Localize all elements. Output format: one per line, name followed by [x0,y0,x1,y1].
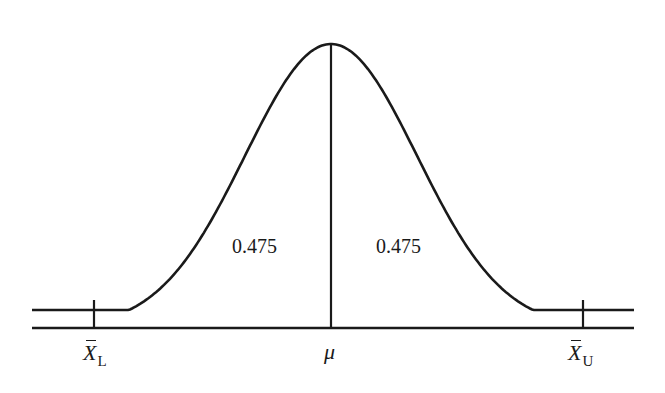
upper-subscript: U [582,353,593,369]
x-bar-symbol: X [568,340,581,366]
bell-curve [32,44,634,310]
x-bar-symbol: X [83,340,96,366]
upper-limit-label: XU [568,340,592,366]
lower-subscript: L [97,353,106,369]
left-area-label: 0.475 [232,235,277,258]
lower-limit-label: XL [83,340,106,366]
curve-canvas [0,0,665,393]
normal-curve-diagram: 0.475 0.475 XL μ XU [0,0,665,393]
mean-label: μ [324,339,335,365]
right-area-label: 0.475 [376,235,421,258]
